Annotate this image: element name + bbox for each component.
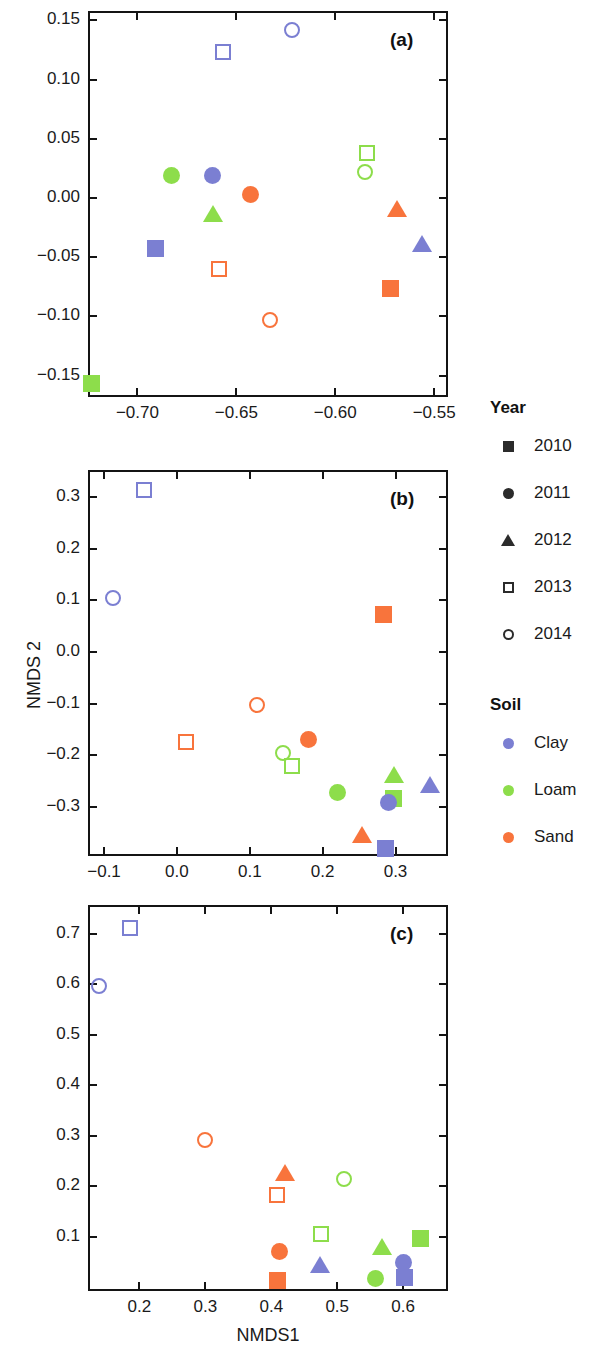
- legend-label-year-2012: 2012: [534, 530, 572, 550]
- legend: Year20102011201220132014SoilClayLoamSand: [0, 0, 594, 1358]
- legend-marker-soil-Clay: [503, 738, 514, 749]
- legend-label-soil-Sand: Sand: [534, 827, 574, 847]
- legend-label-year-2010: 2010: [534, 436, 572, 456]
- legend-label-year-2014: 2014: [534, 624, 572, 644]
- legend-marker-year-2010: [503, 441, 514, 452]
- legend-label-soil-Loam: Loam: [534, 780, 577, 800]
- legend-marker-soil-Loam: [503, 785, 514, 796]
- legend-marker-year-2012: [501, 534, 515, 546]
- legend-title-year: Year: [490, 398, 526, 418]
- legend-marker-year-2014: [503, 629, 514, 640]
- legend-label-soil-Clay: Clay: [534, 733, 568, 753]
- legend-label-year-2011: 2011: [534, 483, 571, 503]
- legend-marker-year-2013: [503, 582, 514, 593]
- nmds-figure: (a)−0.15−0.10−0.050.000.050.100.15−0.70−…: [0, 0, 594, 1358]
- legend-marker-year-2011: [503, 488, 514, 499]
- legend-marker-soil-Sand: [503, 832, 514, 843]
- legend-title-soil: Soil: [490, 695, 521, 715]
- legend-label-year-2013: 2013: [534, 577, 572, 597]
